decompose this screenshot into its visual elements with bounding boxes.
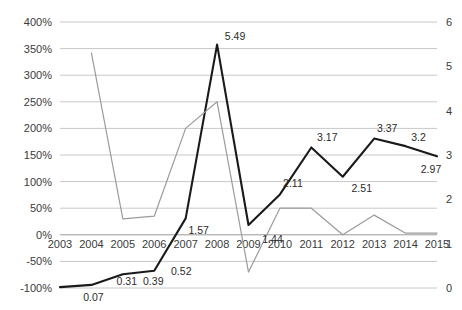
data-point-label: 1.44 [262, 233, 283, 245]
chart-container: 400%350%300%250%200%150%100%50%0%-50%-10… [0, 0, 462, 310]
right-axis-tick-label: 0 [446, 282, 452, 294]
left-axis-ticks: 400%350%300%250%200%150%100%50%0%-50%-10… [20, 16, 52, 294]
x-axis-tick-label: 2006 [142, 238, 166, 250]
left-axis-tick-label: 50% [30, 202, 52, 214]
series-line-value-series [60, 45, 437, 288]
x-axis-tick-label: 2014 [393, 238, 417, 250]
x-axis-tick-label: 2013 [362, 238, 386, 250]
right-axis-tick-label: 4 [446, 105, 452, 117]
data-point-label: 3.2 [411, 131, 426, 143]
right-axis-tick-label: 2 [446, 193, 452, 205]
x-axis-tick-label: 2003 [48, 238, 72, 250]
data-point-label: 2.11 [283, 177, 303, 189]
x-axis-tick-label: 2005 [111, 238, 135, 250]
x-axis-tick-label: 2015 [425, 238, 449, 250]
data-point-label: 0.31 [117, 275, 138, 287]
data-point-labels: 0.070.310.390.521.575.491.442.113.172.51… [83, 30, 441, 303]
x-axis-tick-label: 2011 [300, 238, 324, 250]
left-axis-tick-label: 300% [24, 69, 52, 81]
left-axis-tick-label: 100% [24, 176, 52, 188]
dual-axis-line-chart: 400%350%300%250%200%150%100%50%0%-50%-10… [0, 0, 462, 310]
right-axis-tick-label: 3 [446, 149, 452, 161]
x-axis-tick-label: 2012 [331, 238, 355, 250]
left-axis-tick-label: 400% [24, 16, 52, 28]
left-axis-tick-label: 350% [24, 43, 52, 55]
right-axis-ticks: 6543210 [446, 16, 452, 294]
x-axis-tick-label: 2004 [79, 238, 103, 250]
x-axis-ticks: 2003200420052006200720082009201020112012… [48, 238, 449, 250]
left-axis-tick-label: 250% [24, 96, 52, 108]
data-point-label: 0.39 [143, 275, 164, 287]
data-point-label: 3.37 [377, 122, 398, 134]
left-axis-tick-label: -100% [20, 282, 52, 294]
x-axis-tick-label: 2008 [205, 238, 229, 250]
data-point-label: 0.52 [171, 265, 192, 277]
data-point-label: 2.97 [421, 163, 442, 175]
left-axis-tick-label: 200% [24, 122, 52, 134]
data-point-label: 5.49 [225, 30, 246, 42]
data-point-label: 0.07 [83, 291, 104, 303]
left-axis-tick-label: 150% [24, 149, 52, 161]
right-axis-tick-label: 6 [446, 16, 452, 28]
right-axis-tick-label: 5 [446, 60, 452, 72]
data-point-label: 3.17 [317, 131, 338, 143]
data-point-label: 2.51 [352, 182, 373, 194]
x-axis-tick-label: 2009 [236, 238, 260, 250]
series-lines [60, 45, 437, 288]
x-axis-tick-label: 2007 [173, 238, 197, 250]
data-point-label: 1.57 [188, 224, 209, 236]
left-axis-tick-label: -50% [26, 255, 52, 267]
